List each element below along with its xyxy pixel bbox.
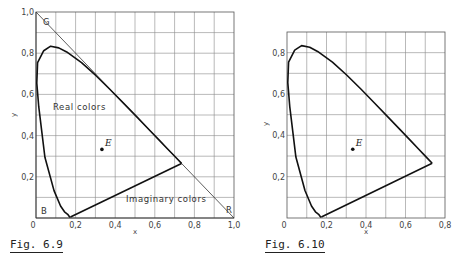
white-point-label: E (104, 138, 112, 148)
x-axis-label: x (133, 228, 137, 236)
white-point-label: E (355, 138, 363, 148)
spectral-locus (37, 46, 182, 217)
x-tick-label: 0,2 (320, 221, 333, 230)
x-tick-label: 0 (30, 221, 35, 230)
y-tick-labels: 0,20,40,60,81,0 (21, 8, 34, 182)
region-label-real-colors: Real colors (53, 102, 106, 112)
white-point-marker (351, 147, 355, 151)
region-label-imaginary-colors: Imaginary colors (126, 194, 207, 204)
vertex-label-r: R (226, 205, 233, 215)
white-point-marker (100, 148, 104, 152)
y-tick-label: 0,8 (272, 49, 285, 58)
grid (287, 32, 445, 218)
figure-canvas: E G B R Real colors Imaginary colors 00,… (0, 0, 462, 262)
x-tick-label: 0,6 (399, 221, 412, 230)
y-axis-label: y (262, 122, 270, 126)
y-tick-label: 0,8 (21, 49, 34, 58)
x-axis-label: x (364, 228, 368, 236)
purple-line (321, 163, 432, 217)
x-tick-label: 1,0 (228, 221, 241, 230)
y-tick-label: 0,6 (272, 90, 285, 99)
y-tick-label: 0,6 (21, 90, 34, 99)
y-tick-label: 0,4 (21, 132, 34, 141)
purple-line (70, 163, 181, 217)
spectral-locus (288, 46, 432, 217)
chart-fig-6-9: E G B R Real colors Imaginary colors 00,… (10, 8, 240, 236)
vertex-label-b: B (41, 206, 47, 216)
y-axis-label: y (10, 113, 18, 117)
x-tick-label: 0,4 (109, 221, 122, 230)
y-tick-label: 1,0 (21, 8, 34, 17)
x-tick-label: 0,8 (188, 221, 201, 230)
y-tick-label: 0,4 (272, 131, 285, 140)
y-tick-labels: 0,20,40,60,8 (272, 49, 285, 182)
chart-fig-6-10: E 00,20,40,60,8 0,20,40,60,8 x y (262, 32, 451, 236)
figure-caption-6-10: Fig. 6.10 (265, 239, 325, 253)
vertex-label-g: G (43, 17, 50, 27)
x-tick-label: 0,8 (439, 221, 452, 230)
x-tick-label: 0,6 (148, 221, 161, 230)
y-tick-label: 0,2 (21, 173, 34, 182)
x-tick-label: 0 (281, 221, 286, 230)
y-tick-label: 0,2 (272, 173, 285, 182)
figure-caption-6-9: Fig. 6.9 (10, 239, 63, 253)
x-tick-label: 0,2 (69, 221, 82, 230)
